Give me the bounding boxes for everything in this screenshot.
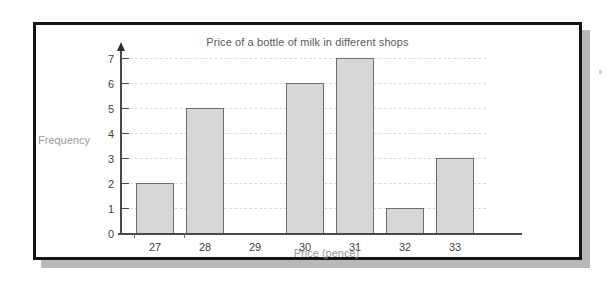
bar-31 bbox=[336, 58, 374, 234]
y-axis-title: Frequency bbox=[38, 134, 90, 146]
bar-chart: Price of a bottle of milk in different s… bbox=[33, 22, 582, 260]
screenshot-root: Price of a bottle of milk in different s… bbox=[0, 0, 611, 297]
bar-28 bbox=[186, 108, 224, 234]
y-tick-2: 2 bbox=[122, 183, 129, 184]
y-tick-label-2: 2 bbox=[108, 178, 114, 190]
y-tick-label-3: 3 bbox=[108, 153, 114, 165]
plot-area: 0 1 2 3 4 5 6 7 bbox=[120, 46, 540, 236]
x-tick-b bbox=[184, 233, 185, 238]
scan-artifact-speck bbox=[599, 70, 602, 74]
bar-30 bbox=[286, 83, 324, 234]
x-axis-line bbox=[118, 233, 522, 235]
gridline-7 bbox=[120, 58, 486, 59]
y-tick-label-1: 1 bbox=[108, 203, 114, 215]
y-tick-label-7: 7 bbox=[108, 53, 114, 65]
y-tick-4: 4 bbox=[122, 133, 129, 134]
y-axis-line bbox=[120, 48, 122, 233]
y-tick-1: 1 bbox=[122, 208, 129, 209]
y-tick-7: 7 bbox=[122, 58, 129, 59]
y-tick-label-6: 6 bbox=[108, 78, 114, 90]
bar-32 bbox=[386, 208, 424, 234]
y-tick-label-0: 0 bbox=[108, 228, 114, 240]
bar-27 bbox=[136, 183, 174, 234]
y-tick-6: 6 bbox=[122, 83, 129, 84]
bar-33 bbox=[436, 158, 474, 234]
y-tick-0: 0 bbox=[122, 233, 129, 234]
y-tick-label-4: 4 bbox=[108, 128, 114, 140]
x-tick-a bbox=[134, 233, 135, 238]
y-tick-3: 3 bbox=[122, 158, 129, 159]
y-tick-label-5: 5 bbox=[108, 103, 114, 115]
y-tick-5: 5 bbox=[122, 108, 129, 109]
x-axis-title: Price (pence) bbox=[33, 247, 582, 259]
y-axis-arrow-icon bbox=[117, 42, 125, 51]
